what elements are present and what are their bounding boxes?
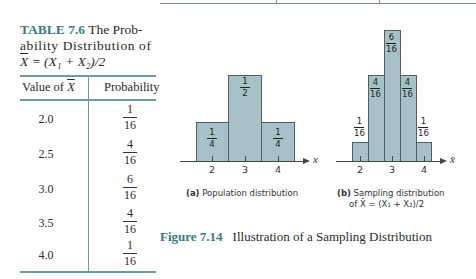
header-value: Value of X	[22, 80, 75, 95]
samp-tick-label-2: 2	[354, 164, 366, 175]
row-value-4: 4.0	[26, 248, 66, 263]
samp-label-2.5: 416	[370, 78, 381, 99]
header-value-text: Value of	[22, 80, 67, 94]
den: 16	[418, 129, 429, 138]
num: 6	[389, 33, 394, 42]
den: 16	[124, 119, 136, 132]
samp-label-3.5: 416	[402, 78, 413, 99]
row-prob-3: 416	[115, 207, 145, 236]
pop-label-4: 14	[273, 128, 283, 149]
samp-tick-label-3: 3	[386, 164, 398, 175]
pop-axis-arrow	[303, 158, 310, 164]
pop-axis-label: x	[313, 153, 318, 165]
caption-tag: (a)	[186, 188, 200, 198]
caption-text: Sampling distribution	[351, 188, 445, 198]
pop-caption: (a) Population distribution	[186, 188, 298, 199]
den: 16	[124, 255, 136, 268]
den: 16	[402, 90, 413, 99]
samp-label-2.0: 116	[354, 117, 365, 138]
table-title-text-1: The Prob-	[88, 22, 142, 37]
samp-tick-4	[424, 156, 425, 161]
pop-label-2: 14	[207, 128, 217, 149]
prev-table-border	[160, 3, 476, 4]
den: 16	[354, 129, 365, 138]
figure-caption: Figure 7.14Illustration of a Sampling Di…	[160, 229, 432, 245]
num: 1	[357, 117, 362, 126]
prev-table-separator	[276, 0, 277, 4]
table-column-divider	[88, 75, 89, 272]
figure-label: Figure 7.14	[160, 229, 223, 244]
pop-tick-4	[278, 156, 279, 161]
samp-caption-line2: of X̄ = (X₁ + X₂)/2	[349, 199, 424, 210]
pop-tick-2	[212, 156, 213, 161]
row-prob-2: 616	[115, 173, 145, 202]
samp-axis-label: x̄	[450, 153, 455, 165]
pop-label-3: 12	[240, 77, 250, 98]
header-value-var: X	[67, 80, 75, 94]
table-title-text-2: ability Distribution of	[20, 38, 152, 53]
pop-tick-label-2: 2	[206, 164, 218, 175]
table-bottom-rule	[20, 271, 156, 273]
samp-label-4.0: 116	[418, 117, 429, 138]
table-label: TABLE 7.6	[20, 22, 85, 37]
num: 1	[242, 77, 247, 86]
samp-caption: (b) Sampling distribution	[337, 188, 445, 199]
prev-table-separator	[379, 0, 380, 4]
num: 4	[127, 138, 133, 151]
caption-tag: (b)	[337, 188, 351, 198]
num: 1	[127, 103, 133, 116]
figure-title: Illustration of a Sampling Distribution	[233, 229, 432, 244]
row-value-3: 3.5	[26, 216, 66, 231]
num: 4	[373, 78, 378, 87]
num: 1	[127, 239, 133, 252]
den: 16	[386, 45, 397, 54]
samp-tick-3	[392, 156, 393, 161]
num: 4	[405, 78, 410, 87]
samp-label-3.0: 616	[386, 33, 397, 54]
samp-tick-label-4: 4	[418, 164, 430, 175]
den: 16	[370, 90, 381, 99]
row-prob-1: 416	[115, 138, 145, 167]
den: 4	[209, 140, 214, 149]
pop-x-axis	[180, 161, 304, 162]
samp-axis-arrow	[440, 158, 447, 164]
den: 16	[124, 189, 136, 202]
row-prob-4: 116	[115, 239, 145, 268]
samp-tick-2	[360, 156, 361, 161]
table-title: TABLE 7.6 The Prob- ability Distribution…	[20, 22, 158, 70]
den: 2	[242, 89, 247, 98]
pop-tick-3	[245, 156, 246, 161]
row-value-0: 2.0	[26, 112, 66, 127]
num: 1	[275, 128, 280, 137]
pop-tick-label-4: 4	[272, 164, 284, 175]
den: 16	[124, 223, 136, 236]
table-title-formula: = (X₁ + X₂)/2	[28, 54, 105, 69]
samp-x-axis	[336, 161, 441, 162]
num: 6	[127, 173, 133, 186]
header-probability: Probability	[104, 80, 160, 95]
num: 4	[127, 207, 133, 220]
table-title-xbar: X	[20, 54, 28, 69]
num: 1	[421, 117, 426, 126]
pop-tick-label-3: 3	[239, 164, 251, 175]
row-value-1: 2.5	[26, 147, 66, 162]
num: 1	[209, 128, 214, 137]
den: 16	[124, 154, 136, 167]
row-value-2: 3.0	[26, 182, 66, 197]
row-prob-0: 116	[115, 103, 145, 132]
den: 4	[275, 140, 280, 149]
caption-text: Population distribution	[200, 188, 299, 198]
